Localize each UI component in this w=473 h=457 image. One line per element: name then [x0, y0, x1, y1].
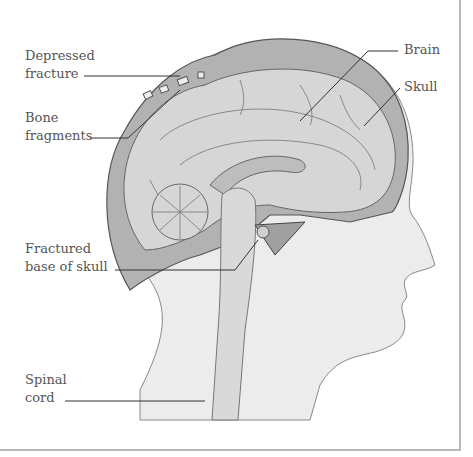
- label-brain: Brain: [404, 41, 440, 59]
- label-line: Fractured: [25, 240, 108, 258]
- label-line: cord: [25, 389, 67, 407]
- label-bone-fragments: Bone fragments: [25, 109, 92, 145]
- label-spinal-cord: Spinal cord: [25, 371, 67, 407]
- label-line: fragments: [25, 127, 92, 145]
- label-line: base of skull: [25, 258, 108, 276]
- label-line: Spinal: [25, 371, 67, 389]
- label-depressed-fracture: Depressed fracture: [25, 47, 95, 83]
- label-line: Bone: [25, 109, 92, 127]
- label-skull: Skull: [404, 78, 437, 96]
- label-fractured-base-of-skull: Fractured base of skull: [25, 240, 108, 276]
- pituitary: [257, 226, 269, 238]
- label-line: Depressed: [25, 47, 95, 65]
- label-line: fracture: [25, 65, 95, 83]
- label-line: Brain: [404, 41, 440, 59]
- label-line: Skull: [404, 78, 437, 96]
